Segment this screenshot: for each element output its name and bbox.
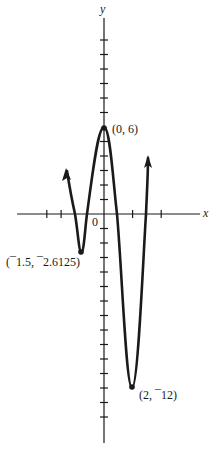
peak-point [101, 125, 107, 131]
origin-label: 0 [92, 216, 98, 228]
left-arrow-icon [62, 168, 71, 181]
x-axis-label: x [203, 207, 208, 219]
y-axis-label: y [100, 3, 105, 15]
right-min-label: (2, ¯12) [139, 389, 177, 401]
left-min-label: (¯1.5, ¯2.6125) [6, 256, 80, 268]
peak-label: (0, 6) [112, 123, 138, 135]
right-min-point [129, 384, 135, 390]
function-graph [0, 0, 218, 453]
left-min-point [78, 249, 84, 255]
